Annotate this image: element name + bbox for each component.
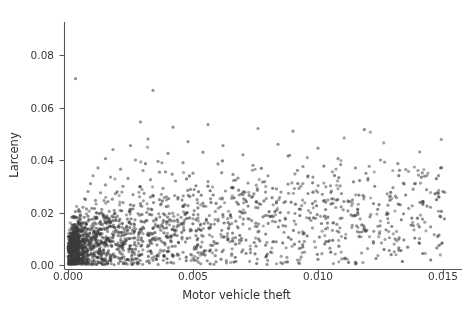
y-tick-label-1: 0.02 [20, 207, 54, 219]
x-tick-label-0: 0.000 [53, 270, 83, 282]
x-tick-label-1: 0.005 [178, 270, 208, 282]
y-tick-label-4: 0.08 [20, 49, 54, 61]
x-tick-label-3: 0.015 [428, 270, 458, 282]
y-axis-label: Larceny [7, 115, 21, 195]
y-tick-label-2: 0.04 [20, 154, 54, 166]
x-tick-label-2: 0.010 [303, 270, 333, 282]
y-tick-label-3: 0.06 [20, 102, 54, 114]
plot-area [0, 0, 473, 315]
scatter-plot-figure: 0.000 0.005 0.010 0.015 0.00 0.02 0.04 0… [0, 0, 473, 315]
x-axis-label: Motor vehicle theft [0, 288, 473, 302]
y-tick-label-0: 0.00 [20, 259, 54, 271]
